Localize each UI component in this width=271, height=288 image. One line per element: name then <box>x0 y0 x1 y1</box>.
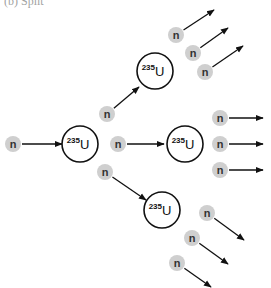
neutron-label: n <box>217 164 224 176</box>
neutron: n <box>5 136 21 152</box>
chain-reaction-diagram: 235U235U235U235U nnnnnnnnnnnnn <box>0 0 271 288</box>
uranium-235-nucleus-central: 235U <box>62 126 98 162</box>
uranium-235-nucleus-top: 235U <box>137 53 173 89</box>
nuclei-layer: 235U235U235U235U <box>62 53 203 228</box>
neutron: n <box>212 136 228 152</box>
neutron: n <box>169 255 185 271</box>
neutron-label: n <box>102 166 109 178</box>
neutron-label: n <box>190 47 197 59</box>
neutron-label: n <box>202 66 209 78</box>
neutron-label: n <box>10 138 17 150</box>
trajectory-arrow-icon <box>199 243 228 264</box>
trajectory-arrow-icon <box>112 177 146 200</box>
neutron-label: n <box>217 112 224 124</box>
arrows-layer <box>22 10 263 287</box>
neutron: n <box>97 164 113 180</box>
neutron-label: n <box>204 207 211 219</box>
trajectory-arrow-icon <box>214 218 244 240</box>
neutron: n <box>110 136 126 152</box>
uranium-235-nucleus-middle: 235U <box>167 126 203 162</box>
neutron-label: n <box>173 29 180 41</box>
trajectory-arrow-icon <box>114 87 139 108</box>
neutron: n <box>168 27 184 43</box>
neutron-label: n <box>174 257 181 269</box>
trajectory-arrow-icon <box>184 10 214 30</box>
trajectory-arrow-icon <box>212 46 243 67</box>
neutron-label: n <box>104 108 111 120</box>
trajectory-arrow-icon <box>184 268 211 287</box>
uranium-235-nucleus-bottom: 235U <box>144 192 180 228</box>
neutron-label: n <box>217 138 224 150</box>
neutron: n <box>185 45 201 61</box>
neutron-label: n <box>115 138 122 150</box>
neutron: n <box>184 230 200 246</box>
neutron: n <box>197 64 213 80</box>
neutron: n <box>212 110 228 126</box>
neutron: n <box>212 162 228 178</box>
neutron: n <box>199 205 215 221</box>
neutron-label: n <box>189 232 196 244</box>
trajectory-arrow-icon <box>200 28 228 48</box>
neutron: n <box>99 106 115 122</box>
